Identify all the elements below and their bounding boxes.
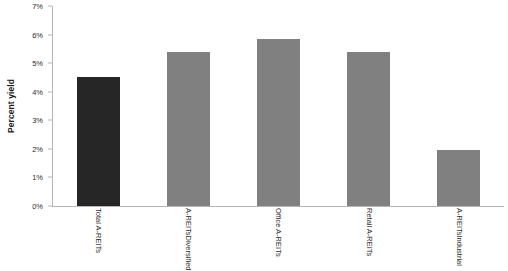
x-axis-label-line: A-REITs	[184, 208, 193, 236]
x-axis-line	[52, 206, 504, 207]
y-tick-label: 4%	[32, 87, 43, 96]
x-label-slot: DiversifiedA-REITs	[143, 208, 233, 260]
y-tick-label: 1%	[32, 173, 43, 182]
y-tick-label: 6%	[32, 30, 43, 39]
bars-container	[53, 6, 504, 206]
x-axis-label-line: A-REITs	[455, 208, 464, 236]
plot-area: 0%1%2%3%4%5%6%7%	[22, 6, 508, 212]
bar-slot	[414, 6, 504, 206]
x-label-slot: Total A-REITs	[53, 208, 143, 260]
y-tick-label: 7%	[32, 2, 43, 11]
x-axis-label: IndustrialA-REITs	[455, 208, 464, 266]
y-tick-label: 2%	[32, 144, 43, 153]
x-label-slot: Retail A-REITs	[324, 208, 414, 260]
x-axis-label: Total A-REITs	[94, 208, 103, 253]
x-axis-label-line: Industrial	[455, 236, 464, 266]
x-label-slot: IndustrialA-REITs	[414, 208, 504, 260]
bar-total-a-reits[interactable]	[77, 77, 120, 206]
bar-slot	[53, 6, 143, 206]
y-tick-label: 5%	[32, 59, 43, 68]
x-axis-labels: Total A-REITsDiversifiedA-REITsOffice A-…	[53, 208, 504, 260]
x-axis-label-line: Diversified	[184, 236, 193, 271]
x-label-slot: Office A-REITs	[233, 208, 323, 260]
bar-slot	[143, 6, 233, 206]
bar-slot	[324, 6, 414, 206]
x-axis-label-line: Total A-REITs	[94, 208, 103, 253]
y-axis-title: Percent yield	[0, 0, 22, 212]
bar-industrial-a-reits[interactable]	[437, 150, 480, 206]
x-axis-label: Retail A-REITs	[364, 208, 373, 256]
bar-slot	[233, 6, 323, 206]
y-axis-title-text: Percent yield	[6, 79, 16, 133]
bar-diversified-a-reits[interactable]	[167, 52, 210, 206]
y-tick-label: 3%	[32, 116, 43, 125]
y-tick-label: 0%	[32, 202, 43, 211]
y-axis-ticks: 0%1%2%3%4%5%6%7%	[22, 6, 48, 206]
x-axis-label: DiversifiedA-REITs	[184, 208, 193, 271]
x-axis-label-line: Office A-REITs	[274, 208, 283, 257]
x-axis-label-line: Retail A-REITs	[364, 208, 373, 256]
bar-office-a-reits[interactable]	[257, 39, 300, 206]
x-axis-label: Office A-REITs	[274, 208, 283, 257]
bar-retail-a-reits[interactable]	[347, 52, 390, 206]
